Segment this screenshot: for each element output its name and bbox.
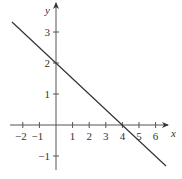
svg-text:3: 3 [45, 26, 51, 38]
x-tick-labels: −2 −1 1 2 3 4 5 6 [15, 130, 159, 142]
svg-text:−1: −1 [38, 150, 50, 162]
svg-text:3: 3 [103, 130, 109, 142]
svg-text:2: 2 [86, 130, 92, 142]
svg-text:1: 1 [70, 130, 76, 142]
svg-text:6: 6 [153, 130, 159, 142]
line-graph: −2 −1 1 2 3 4 5 6 −1 1 2 3 x y [0, 0, 182, 179]
x-axis-label: x [170, 127, 176, 139]
svg-text:−2: −2 [15, 130, 27, 142]
svg-text:4: 4 [120, 130, 126, 142]
svg-text:−1: −1 [32, 130, 44, 142]
data-line [12, 22, 166, 166]
y-axis-label: y [44, 4, 50, 16]
svg-text:2: 2 [45, 57, 51, 69]
svg-text:1: 1 [45, 88, 51, 100]
